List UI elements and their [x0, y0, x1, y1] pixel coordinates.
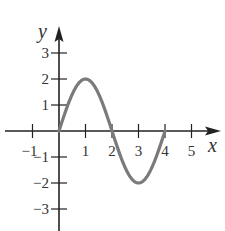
- x-axis-label: x: [207, 134, 217, 156]
- x-tick-label: 2: [108, 143, 116, 159]
- x-tick-label: 4: [161, 143, 169, 159]
- function-graph: −112345321−1−2−3 x y: [0, 0, 225, 231]
- y-tick-label: 3: [42, 45, 50, 61]
- x-tick-label: 3: [135, 143, 143, 159]
- y-tick-label: −1: [33, 149, 49, 165]
- x-tick-label: 1: [82, 143, 90, 159]
- y-tick-label: −2: [33, 175, 49, 191]
- y-axis-label: y: [36, 20, 47, 43]
- y-tick-label: 1: [42, 97, 50, 113]
- y-tick-label: −3: [33, 201, 49, 217]
- x-tick-label: 5: [188, 143, 196, 159]
- y-tick-label: 2: [42, 71, 50, 87]
